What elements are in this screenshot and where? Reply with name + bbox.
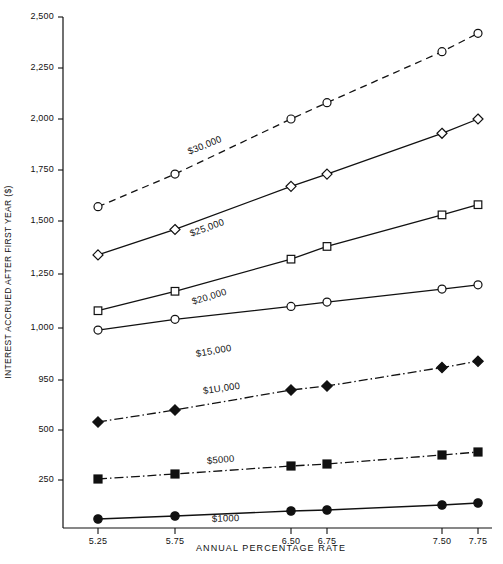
y-tick-label: 2,250	[8, 62, 54, 72]
y-tick-label: 1,000	[8, 322, 54, 332]
y-tick-label: 500	[8, 424, 54, 434]
y-tick-label: 1,250	[8, 268, 54, 278]
x-axis-title: ANNUAL PERCENTAGE RATE	[63, 543, 479, 553]
y-tick-label: 2,500	[8, 11, 54, 21]
y-tick-label: 950	[8, 374, 54, 384]
series-label-7: $1000	[212, 512, 240, 524]
interest-accrued-chart: INTEREST ACCRUED AFTER FIRST YEAR ($) 2,…	[0, 0, 503, 564]
y-tick-label: 2,000	[8, 113, 54, 123]
y-tick-label: 1,750	[8, 164, 54, 174]
plot-area	[0, 0, 503, 564]
y-tick-label: 1,500	[8, 215, 54, 225]
y-tick-label: 250	[8, 474, 54, 484]
